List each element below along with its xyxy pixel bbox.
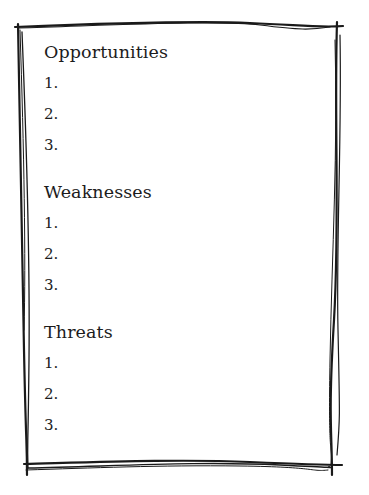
section-opportunities: Opportunities 1. 2. 3. xyxy=(44,38,324,161)
section-heading: Opportunities xyxy=(44,38,324,66)
list-item: 2. xyxy=(44,239,324,270)
list-item: 2. xyxy=(44,99,324,130)
section-threats: Threats 1. 2. 3. xyxy=(44,318,324,441)
list-item: 1. xyxy=(44,68,324,99)
section-weaknesses: Weaknesses 1. 2. 3. xyxy=(44,178,324,301)
swot-list: Opportunities 1. 2. 3. Weaknesses 1. 2. … xyxy=(44,38,324,441)
list-item: 1. xyxy=(44,348,324,379)
list-item: 3. xyxy=(44,270,324,301)
section-heading: Weaknesses xyxy=(44,178,324,206)
list-item: 1. xyxy=(44,208,324,239)
list-item: 3. xyxy=(44,130,324,161)
list-item: 2. xyxy=(44,379,324,410)
section-heading: Threats xyxy=(44,318,324,346)
list-item: 3. xyxy=(44,410,324,441)
